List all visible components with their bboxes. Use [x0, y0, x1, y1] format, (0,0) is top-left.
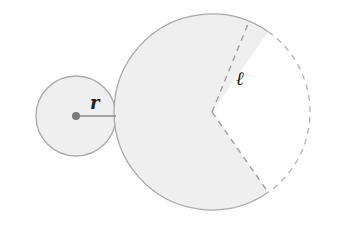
center-dot [72, 112, 80, 120]
cone-net-diagram: r ℓ [0, 0, 342, 229]
radius-label: r [90, 92, 101, 113]
slant-height-label: ℓ [236, 67, 244, 89]
missing-arc-dashed [268, 32, 310, 193]
lateral-surface-sector [114, 14, 268, 210]
